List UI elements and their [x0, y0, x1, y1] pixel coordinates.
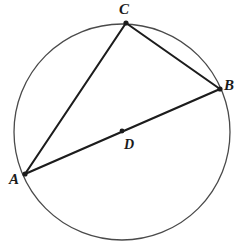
segment-CB: [126, 23, 220, 89]
geometry-figure: A B C D: [0, 0, 240, 252]
point-C: [123, 20, 128, 25]
point-D-center: [120, 129, 125, 134]
vertex-label-A: A: [9, 172, 19, 187]
vertex-label-B: B: [224, 78, 234, 93]
point-A: [22, 171, 27, 176]
point-B: [217, 86, 222, 91]
geometry-canvas: [0, 0, 240, 252]
vertex-label-C: C: [119, 2, 129, 17]
vertex-label-D: D: [124, 138, 134, 152]
